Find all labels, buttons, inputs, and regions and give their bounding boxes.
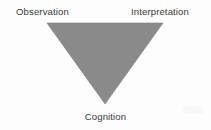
node-label-observation: Observation bbox=[16, 6, 69, 17]
scan-artifact bbox=[183, 106, 203, 114]
node-label-interpretation: Interpretation bbox=[131, 6, 189, 17]
diagram-canvas: Observation Interpretation Cognition bbox=[0, 0, 211, 130]
node-label-cognition: Cognition bbox=[0, 111, 211, 122]
triangle-polygon bbox=[47, 23, 163, 104]
